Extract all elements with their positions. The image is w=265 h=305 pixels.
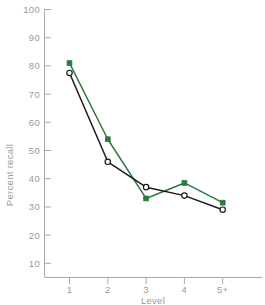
y-tick-label-10: 10 <box>29 258 40 269</box>
y-axis-ticks <box>45 10 52 264</box>
data-point-black-series-4 <box>182 193 187 198</box>
data-point-green-series-1 <box>67 61 72 66</box>
data-series-layer <box>67 61 226 213</box>
y-tick-label-30: 30 <box>29 201 40 212</box>
y-tick-label-70: 70 <box>29 89 40 100</box>
x-tick-label-1: 1 <box>67 284 73 295</box>
data-point-black-series-2 <box>105 159 110 164</box>
x-tick-label-4: 4 <box>182 284 188 295</box>
y-tick-label-100: 100 <box>23 4 40 15</box>
data-point-black-series-3 <box>143 184 148 189</box>
y-tick-label-20: 20 <box>29 230 40 241</box>
x-tick-label-3: 3 <box>143 284 149 295</box>
y-tick-label-40: 40 <box>29 173 40 184</box>
data-point-green-series-4 <box>182 181 187 186</box>
data-point-black-series-1 <box>67 70 72 75</box>
x-tick-label-5plus: 5+ <box>217 284 229 295</box>
chart-container: 100 90 80 70 60 50 40 30 20 10 Percent r… <box>0 0 265 305</box>
data-point-green-series-2 <box>105 137 110 142</box>
data-point-green-series-5+ <box>220 200 225 205</box>
x-axis-tick-labels: 1 2 3 4 5+ <box>67 284 229 295</box>
y-tick-label-50: 50 <box>29 145 40 156</box>
series-line-green-series <box>70 63 223 203</box>
line-chart: 100 90 80 70 60 50 40 30 20 10 Percent r… <box>0 0 265 305</box>
data-point-green-series-3 <box>144 196 149 201</box>
y-tick-label-80: 80 <box>29 60 40 71</box>
data-point-black-series-5+ <box>220 207 225 212</box>
y-axis-title: Percent recall <box>4 144 15 206</box>
y-tick-label-60: 60 <box>29 117 40 128</box>
y-tick-label-90: 90 <box>29 32 40 43</box>
y-axis-tick-labels: 100 90 80 70 60 50 40 30 20 10 <box>23 4 40 269</box>
x-tick-label-2: 2 <box>105 284 111 295</box>
x-axis-title: Level <box>141 295 165 305</box>
